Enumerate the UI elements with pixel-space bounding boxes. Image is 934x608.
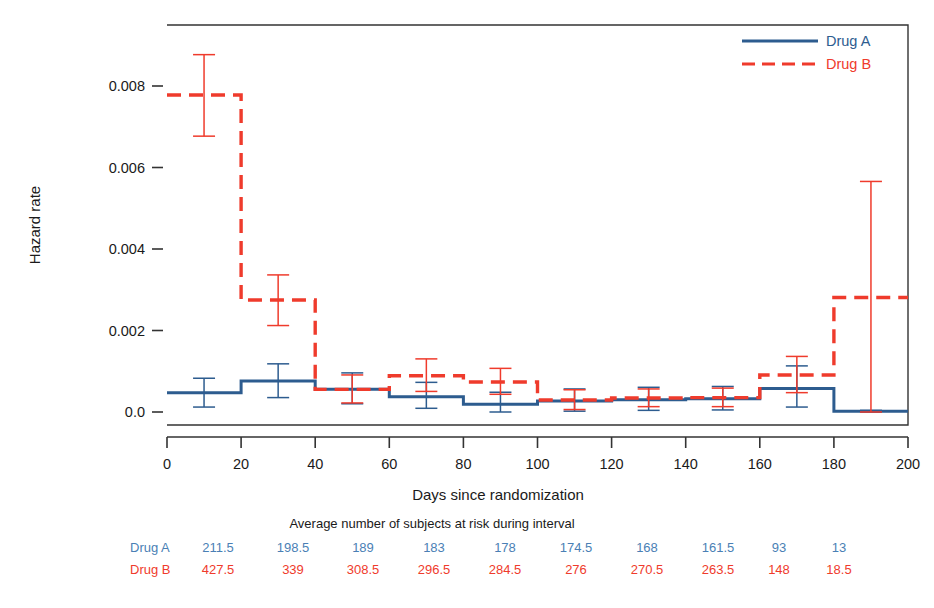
hazard-rate-figure: 0.0 0.002 0.004 0.006 0.008 Hazard rate	[0, 0, 934, 608]
risk-cell: 276	[565, 562, 587, 577]
y-tick-label-2: 0.004	[109, 241, 145, 257]
y-axis-ticks	[152, 86, 163, 412]
risk-cell: 93	[772, 540, 786, 555]
legend-label-drug-a: Drug A	[826, 33, 871, 49]
x-axis-ticks	[167, 437, 908, 448]
y-axis: 0.0 0.002 0.004 0.006 0.008 Hazard rate	[26, 78, 163, 420]
x-tick-label-7: 140	[674, 456, 698, 472]
risk-cell: 427.5	[202, 562, 235, 577]
step-line	[167, 95, 908, 400]
risk-cell: 270.5	[631, 562, 664, 577]
series-drug-b	[167, 55, 908, 412]
y-tick-label-3: 0.006	[109, 160, 145, 176]
risk-cell: 211.5	[202, 540, 234, 555]
risk-cell: 339	[282, 562, 304, 577]
x-tick-label-4: 80	[455, 456, 471, 472]
risk-cell: 263.5	[702, 562, 735, 577]
error-bars	[193, 55, 882, 412]
x-tick-label-0: 0	[163, 456, 171, 472]
x-tick-label-2: 40	[307, 456, 323, 472]
x-tick-labels: 0 20 40 60 80 100 120 140 160 180 200	[163, 456, 920, 472]
risk-row-label: Drug B	[130, 562, 170, 577]
x-tick-label-8: 160	[748, 456, 772, 472]
risk-table-title: Average number of subjects at risk durin…	[289, 516, 574, 531]
risk-row-drug-b: Drug B427.5339308.5296.5284.5276270.5263…	[130, 562, 852, 577]
legend-label-drug-b: Drug B	[826, 56, 871, 72]
y-tick-labels: 0.0 0.002 0.004 0.006 0.008	[109, 78, 145, 420]
x-tick-label-1: 20	[233, 456, 249, 472]
risk-cell: 189	[352, 540, 374, 555]
risk-cell: 174.5	[560, 540, 593, 555]
risk-cell: 296.5	[418, 562, 451, 577]
series-layer	[167, 55, 908, 412]
x-axis-title: Days since randomization	[412, 486, 584, 503]
risk-row-drug-a: Drug A211.5198.5189183178174.5168161.593…	[130, 540, 846, 555]
hazard-rate-chart: 0.0 0.002 0.004 0.006 0.008 Hazard rate	[0, 0, 934, 608]
x-tick-label-6: 120	[599, 456, 623, 472]
x-tick-label-3: 60	[381, 456, 397, 472]
y-tick-label-1: 0.002	[109, 323, 145, 339]
risk-cell: 168	[636, 540, 658, 555]
risk-cell: 178	[494, 540, 516, 555]
x-axis: 0 20 40 60 80 100 120 140 160 180 200 Da…	[163, 437, 920, 503]
risk-cell: 18.5	[826, 562, 851, 577]
risk-table-rows: Drug A211.5198.5189183178174.5168161.593…	[130, 540, 852, 577]
risk-cell: 13	[832, 540, 846, 555]
y-tick-label-4: 0.008	[109, 78, 145, 94]
risk-cell: 183	[423, 540, 445, 555]
y-tick-label-0: 0.0	[125, 404, 145, 420]
risk-cell: 308.5	[347, 562, 380, 577]
legend: Drug A Drug B	[742, 33, 871, 72]
risk-table: Average number of subjects at risk durin…	[130, 516, 852, 577]
risk-cell: 284.5	[489, 562, 522, 577]
risk-cell: 148	[768, 562, 790, 577]
risk-cell: 198.5	[277, 540, 310, 555]
x-tick-label-10: 200	[896, 456, 920, 472]
risk-cell: 161.5	[702, 540, 735, 555]
x-tick-label-9: 180	[822, 456, 846, 472]
y-axis-title: Hazard rate	[26, 186, 43, 264]
x-tick-label-5: 100	[525, 456, 549, 472]
risk-row-label: Drug A	[130, 540, 170, 555]
